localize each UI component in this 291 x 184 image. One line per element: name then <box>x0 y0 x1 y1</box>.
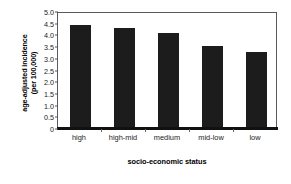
y-tick-label: 4.0 <box>44 31 54 40</box>
y-tick-mark <box>55 23 58 24</box>
y-tick-mark <box>55 93 58 94</box>
x-tick-mark <box>233 129 234 132</box>
x-tick-mark <box>189 129 190 132</box>
bar-chart: age-adjusted incidence (per 100,000) 00.… <box>0 0 291 184</box>
y-tick-mark <box>55 47 58 48</box>
bar <box>114 28 135 128</box>
y-axis-ticks: 00.51.01.52.02.53.03.54.04.55.0 <box>30 12 54 129</box>
y-tick-label: 1.0 <box>44 101 54 110</box>
y-tick-mark <box>55 58 58 59</box>
y-axis-title-line1: age-adjusted incidence <box>20 34 29 111</box>
bar <box>202 46 223 128</box>
y-tick-mark <box>55 82 58 83</box>
y-tick-mark <box>55 129 58 130</box>
bars-layer <box>58 13 276 128</box>
x-tick-label: high <box>72 133 86 142</box>
x-tick-mark <box>145 129 146 132</box>
y-tick-label: 3.0 <box>44 54 54 63</box>
y-tick-label: 0 <box>50 125 54 134</box>
y-tick-label: 1.5 <box>44 89 54 98</box>
y-tick-label: 3.5 <box>44 43 54 52</box>
x-tick-label: low <box>249 133 260 142</box>
bar <box>246 52 267 128</box>
x-axis-baseline <box>57 127 278 130</box>
y-tick-label: 0.5 <box>44 113 54 122</box>
x-tick-label: medium <box>154 133 180 142</box>
y-tick-label: 5.0 <box>44 8 54 17</box>
y-tick-mark <box>55 105 58 106</box>
plot-area <box>57 12 277 129</box>
y-tick-label: 2.5 <box>44 66 54 75</box>
y-tick-mark <box>55 12 58 13</box>
x-axis-title: socio-economic status <box>57 157 277 166</box>
y-tick-mark <box>55 35 58 36</box>
x-tick-label: high-mid <box>109 133 137 142</box>
y-tick-mark <box>55 70 58 71</box>
x-tick-label: mid-low <box>198 133 223 142</box>
x-tick-mark <box>101 129 102 132</box>
bar <box>158 33 179 128</box>
y-tick-label: 2.0 <box>44 78 54 87</box>
bar <box>70 25 91 128</box>
y-tick-mark <box>55 117 58 118</box>
y-tick-label: 4.5 <box>44 19 54 28</box>
